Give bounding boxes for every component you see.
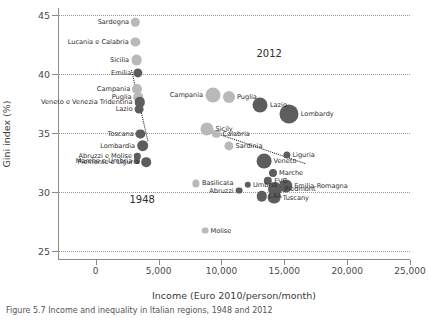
- point-label-lucania-e-calabria: Lucania e Calabria: [68, 39, 129, 46]
- point-label-laa: LAA: [269, 193, 282, 200]
- gridline-y-25: [58, 251, 410, 252]
- data-point-marche[interactable]: [269, 169, 277, 177]
- x-axis-line: [58, 259, 410, 260]
- y-tick-40: [52, 74, 58, 75]
- gridline-y-30: [58, 192, 410, 193]
- plot-area: 253035404505,00010,00015,00020,00025,000…: [58, 8, 410, 260]
- data-point-piemonte-e-liguria[interactable]: [141, 157, 151, 167]
- gridline-y-45: [58, 15, 410, 16]
- y-tick-30: [52, 192, 58, 193]
- x-tick-label-5000: 5,000: [146, 266, 172, 276]
- data-point-veneto[interactable]: [257, 154, 272, 169]
- data-point-lombardia[interactable]: [137, 140, 149, 152]
- point-label-lazio: Lazio: [116, 106, 133, 113]
- x-tick-label-25000: 25,000: [394, 266, 426, 276]
- point-label-piemonte-e-liguria: Piemonte e Liguria: [77, 159, 139, 166]
- point-label-emilia: Emilia: [111, 69, 131, 76]
- annotation-1948: 1948: [129, 193, 154, 204]
- y-tick-label-25: 25: [38, 245, 50, 256]
- point-label-piedmont: Piedmont: [284, 186, 315, 193]
- y-tick-label-30: 30: [38, 186, 50, 197]
- y-tick-label-40: 40: [38, 68, 50, 79]
- point-label-sicilia: Sicilia: [110, 57, 129, 64]
- data-point-puglia[interactable]: [223, 91, 235, 103]
- point-label-puglia: Puglia: [237, 94, 257, 101]
- point-label-molise: Molise: [210, 227, 231, 234]
- point-label-toscana: Toscana: [107, 131, 133, 138]
- y-tick-25: [52, 251, 58, 252]
- data-point-basilicata[interactable]: [193, 180, 200, 187]
- data-point-lucania-e-calabria[interactable]: [131, 38, 140, 47]
- x-tick-0: [96, 260, 97, 265]
- y-tick-label-45: 45: [38, 10, 50, 21]
- x-tick-15000: [284, 260, 285, 265]
- x-tick-25000: [410, 260, 411, 265]
- data-point-umbria[interactable]: [245, 181, 251, 187]
- y-axis-line: [58, 8, 59, 260]
- data-point-emilia[interactable]: [133, 68, 142, 77]
- point-label-campania: Campania: [97, 86, 130, 93]
- data-point-sardegna[interactable]: [131, 18, 139, 26]
- x-tick-10000: [221, 260, 222, 265]
- y-tick-45: [52, 15, 58, 16]
- data-point-abruzzi[interactable]: [236, 187, 243, 194]
- point-label-lombardy: Lombardy: [301, 111, 334, 118]
- x-tick-label-20000: 20,000: [331, 266, 363, 276]
- data-point-campania[interactable]: [205, 88, 220, 103]
- y-tick-label-35: 35: [38, 127, 50, 138]
- data-point-toscana[interactable]: [136, 129, 145, 138]
- point-label-lombardia: Lombardia: [100, 142, 135, 149]
- x-tick-label-0: 0: [93, 266, 99, 276]
- x-tick-5000: [159, 260, 160, 265]
- figure-caption: Figure 5.7 Income and inequality in Ital…: [0, 306, 428, 315]
- y-tick-35: [52, 133, 58, 134]
- x-tick-label-10000: 10,000: [206, 266, 238, 276]
- point-label-marche: Marche: [279, 170, 303, 177]
- point-label-lazio: Lazio: [270, 101, 287, 108]
- point-label-fvg: FVG: [274, 178, 287, 185]
- x-tick-20000: [347, 260, 348, 265]
- data-point-sardinia[interactable]: [224, 141, 233, 150]
- data-point-laa[interactable]: [256, 191, 266, 201]
- x-tick-label-15000: 15,000: [269, 266, 301, 276]
- x-axis-title: Income (Euro 2010/person/month): [152, 290, 316, 301]
- point-label-campania: Campania: [170, 92, 203, 99]
- point-label-abruzzi: Abruzzi: [209, 187, 233, 194]
- y-axis-title: Gini index (%): [1, 100, 12, 167]
- point-label-sardinia: Sardinia: [236, 142, 263, 149]
- point-label-veneto: Veneto: [274, 158, 297, 165]
- data-point-lazio[interactable]: [135, 105, 144, 114]
- point-label-calabria: Calabria: [223, 131, 250, 138]
- annotation-2012: 2012: [256, 47, 281, 58]
- data-point-molise[interactable]: [202, 227, 209, 234]
- data-point-sicilia[interactable]: [131, 54, 142, 65]
- figure-container: 253035404505,00010,00015,00020,00025,000…: [0, 0, 428, 324]
- point-label-sardegna: Sardegna: [98, 19, 129, 26]
- point-label-tuscany: Tuscany: [283, 194, 309, 201]
